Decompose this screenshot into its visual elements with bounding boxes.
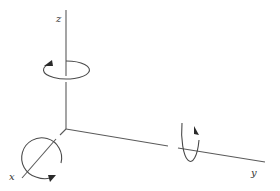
x-rotation-indicator [22, 138, 62, 182]
x-axis-label: x [9, 171, 15, 182]
x-axis [22, 129, 66, 178]
z-rotation-arrow-icon [44, 60, 53, 66]
z-axis-label: z [55, 13, 62, 24]
x-rotation-arrow-icon [48, 175, 56, 182]
y-rotation-indicator [182, 123, 199, 161]
y-axis-label: y [250, 167, 257, 178]
y-axis [66, 129, 265, 162]
coordinate-axes-diagram: z y x [0, 0, 280, 191]
y-rotation-arrow-icon [194, 126, 199, 135]
